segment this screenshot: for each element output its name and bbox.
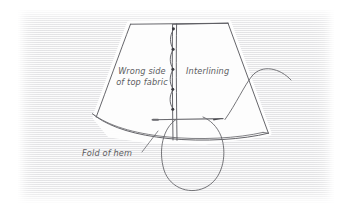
label-interlining: Interlining xyxy=(186,66,246,77)
stitch-knot xyxy=(171,88,174,91)
sewing-diagram-artwork xyxy=(0,0,352,217)
illustration-canvas: Wrong side of top fabric Interlining Fol… xyxy=(0,0,352,217)
stitch-knot xyxy=(172,27,175,30)
stitch-knot xyxy=(172,48,175,51)
stitch-knot xyxy=(171,108,174,111)
label-fold-of-hem: Fold of hem xyxy=(82,148,144,159)
label-wrong-side-of-top-fabric: Wrong side of top fabric xyxy=(108,66,176,87)
